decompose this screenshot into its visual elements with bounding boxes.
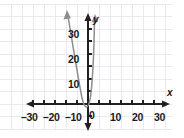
y-tick-label: 10 <box>68 79 79 90</box>
y-tick-label: 20 <box>68 54 79 65</box>
y-axis-down-arrow <box>85 123 92 131</box>
x-tick-label: –30 <box>21 112 38 123</box>
y-axis-name: y <box>93 15 99 25</box>
x-axis-right-arrow <box>162 101 170 108</box>
y-axis-up-arrow <box>85 13 92 21</box>
parabola-left-arrow <box>64 10 71 20</box>
coordinate-plane-figure: –30 –20 –10 0 10 20 30 30 20 10 x y <box>0 0 184 138</box>
x-tick-label: 30 <box>154 112 165 123</box>
x-axis-name: x <box>167 88 173 98</box>
x-axis <box>26 100 170 108</box>
x-tick-label: 20 <box>132 112 143 123</box>
origin-label: 0 <box>89 110 95 121</box>
y-tick-label: 30 <box>68 29 79 40</box>
x-tick-label: –20 <box>43 112 60 123</box>
x-tick-label: –10 <box>65 112 82 123</box>
x-tick-label: 10 <box>110 112 121 123</box>
